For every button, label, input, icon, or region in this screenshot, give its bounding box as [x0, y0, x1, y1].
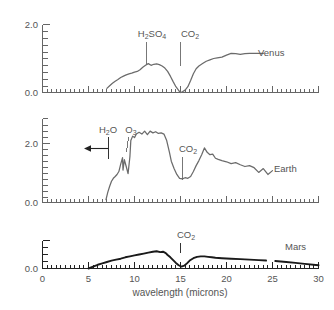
mars-series-label: Mars — [285, 241, 306, 252]
mars-x-ticks — [43, 262, 319, 269]
co2-label: CO2 — [181, 28, 199, 40]
x-tick-label: 15 — [175, 273, 186, 284]
venus-series-label: Venus — [258, 47, 285, 58]
x-tick-label: 5 — [86, 273, 91, 284]
earth-spectrum-curve — [106, 131, 273, 199]
venus-ytick-top: 2.0 — [25, 19, 38, 30]
x-tick-label: 25 — [267, 273, 278, 284]
earth-annotation-o3: O3 — [125, 124, 136, 152]
h2o-label: H2O — [99, 124, 117, 136]
h2o-arrow-head — [84, 145, 91, 151]
earth-ytick-bottom: 0.0 — [25, 197, 38, 208]
x-tick-label: 10 — [129, 273, 140, 284]
venus-annotation-h2so4: H2SO4 — [138, 28, 167, 65]
panel-earth: 2.0 0.0 H2O O3 CO2 Earth — [25, 119, 319, 209]
x-axis-title: wavelength (microns) — [131, 287, 227, 298]
earth-annotation-h2o: H2O — [84, 124, 117, 159]
panel-mars: 0.0 051015202530 CO2 Mars wavelength (mi… — [25, 229, 324, 298]
mars-ytick-bottom: 0.0 — [25, 263, 38, 274]
spectra-figure: 2.0 0.0 H2SO4 CO2 Venus — [0, 0, 334, 310]
x-tick-label: 0 — [40, 273, 45, 284]
h2so4-label: H2SO4 — [138, 28, 167, 40]
earth-annotation-co2: CO2 — [179, 143, 197, 180]
mars-x-tick-labels: 051015202530 — [40, 273, 324, 284]
venus-spectrum-curve — [107, 53, 263, 92]
x-tick-label: 20 — [221, 273, 232, 284]
spectra-svg: 2.0 0.0 H2SO4 CO2 Venus — [0, 0, 334, 310]
earth-co2-label: CO2 — [179, 143, 197, 155]
o3-label: O3 — [125, 124, 136, 136]
panel-venus: 2.0 0.0 H2SO4 CO2 Venus — [25, 19, 319, 98]
mars-annotation-co2: CO2 — [177, 229, 195, 253]
earth-ytick-top: 2.0 — [25, 138, 38, 149]
venus-annotation-co2: CO2 — [181, 28, 200, 66]
x-tick-label: 30 — [313, 273, 324, 284]
earth-x-minor-ticks — [43, 196, 319, 203]
earth-series-label: Earth — [274, 163, 297, 174]
venus-ytick-bottom: 0.0 — [25, 87, 38, 98]
venus-axes: 2.0 0.0 — [25, 19, 319, 98]
mars-co2-label: CO2 — [177, 229, 195, 241]
venus-x-minor-ticks — [43, 86, 319, 93]
